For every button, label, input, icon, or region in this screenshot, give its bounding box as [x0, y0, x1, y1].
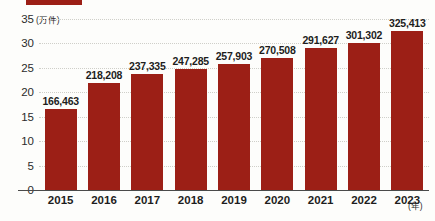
bar-value-label: 301,302 [346, 29, 383, 41]
chart-legend [0, 0, 435, 9]
x-axis-unit-label: (年) [408, 199, 423, 211]
bar-value-label: 257,903 [216, 50, 253, 62]
x-axis-tick-label: 2015 [48, 194, 74, 206]
x-axis-tick-label: 2017 [135, 194, 161, 206]
y-axis-tick-labels: 05101520253035 [0, 19, 34, 190]
x-axis-tick-label: 2020 [265, 194, 291, 206]
y-axis-tick-label: 5 [28, 160, 34, 172]
bar-value-label: 270,508 [259, 44, 296, 56]
bar-value-label: 291,627 [302, 34, 339, 46]
plot-area: 166,463218,208237,335247,285257,903270,5… [39, 19, 429, 190]
bar: 166,463 [45, 109, 77, 190]
bar-value-label: 218,208 [86, 69, 123, 81]
y-axis-tick-label: 20 [21, 86, 34, 98]
bar-value-label: 325,413 [389, 17, 426, 29]
y-axis-tick-label: 30 [21, 37, 34, 49]
legend-color-swatch [26, 0, 82, 5]
x-axis-tick-label: 2016 [91, 194, 117, 206]
bar: 291,627 [305, 48, 337, 190]
x-axis-tick-labels: 201520162017201820192020202120222023 [39, 194, 429, 214]
y-axis-tick-label: 35 [21, 13, 34, 25]
x-axis-tick-label: 2021 [308, 194, 334, 206]
bar: 325,413 [391, 31, 423, 190]
bar: 237,335 [131, 74, 163, 190]
x-axis-baseline [18, 190, 429, 191]
x-axis-tick-label: 2019 [221, 194, 247, 206]
gridline [39, 19, 429, 20]
y-axis-tick-label: 25 [21, 62, 34, 74]
bar: 301,302 [348, 43, 380, 190]
bar-chart: (万件) 05101520253035 166,463218,208237,33… [0, 0, 435, 221]
bar-value-label: 166,463 [42, 95, 79, 107]
y-axis-tick-label: 10 [21, 135, 34, 147]
bar: 218,208 [88, 83, 120, 190]
bar: 270,508 [261, 58, 293, 190]
bar: 247,285 [175, 69, 207, 190]
bar: 257,903 [218, 64, 250, 190]
bar-value-label: 247,285 [172, 55, 209, 67]
y-axis-tick-label: 15 [21, 111, 34, 123]
x-axis-tick-label: 2022 [351, 194, 377, 206]
x-axis-tick-label: 2018 [178, 194, 204, 206]
bar-value-label: 237,335 [129, 60, 166, 72]
